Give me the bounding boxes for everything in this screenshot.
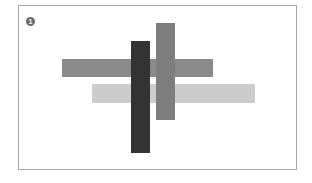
dark-vertical-bar <box>131 41 150 153</box>
step-number-badge: 1 <box>26 17 35 26</box>
gray-vertical-bar <box>156 23 175 120</box>
